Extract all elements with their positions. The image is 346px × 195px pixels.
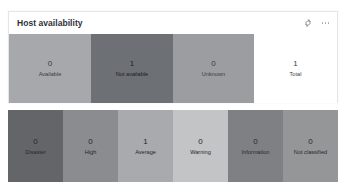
- severity-row: 0 Disaster 0 High 1 Average 0 Warning 0 …: [8, 110, 338, 182]
- cell-label: Average: [135, 148, 156, 156]
- ellipsis-glyph: [322, 22, 330, 24]
- severity-cell-information[interactable]: 0 Information: [228, 110, 283, 182]
- gear-icon[interactable]: [302, 18, 313, 29]
- severity-cell-average[interactable]: 1 Average: [118, 110, 173, 182]
- widget-card: Host availability 0 Availabl: [8, 11, 338, 103]
- availability-row: 0 Available 1 Not available 0 Unknown 1 …: [9, 34, 337, 103]
- cell-label: Total: [290, 70, 302, 78]
- cell-label: Warning: [190, 148, 211, 156]
- more-options-icon[interactable]: [320, 18, 331, 29]
- cell-value: 1: [130, 59, 134, 69]
- availability-cell-not-available[interactable]: 1 Not available: [91, 34, 173, 103]
- availability-cell-unknown[interactable]: 0 Unknown: [173, 34, 254, 103]
- cell-value: 0: [211, 59, 215, 69]
- severity-cell-disaster[interactable]: 0 Disaster: [8, 110, 63, 182]
- cell-value: 0: [33, 137, 37, 147]
- cell-value: 0: [48, 59, 52, 69]
- cell-label: Available: [39, 70, 62, 78]
- severity-cell-high[interactable]: 0 High: [63, 110, 118, 182]
- cell-label: Disaster: [25, 148, 46, 156]
- cell-label: Unknown: [202, 70, 225, 78]
- cell-value: 1: [143, 137, 147, 147]
- cell-label: Not available: [116, 70, 148, 78]
- cell-value: 0: [198, 137, 202, 147]
- severity-cell-not-classified[interactable]: 0 Not classified: [283, 110, 338, 182]
- availability-cell-total[interactable]: 1 Total: [254, 34, 337, 103]
- cell-value: 1: [293, 59, 297, 69]
- availability-cell-available[interactable]: 0 Available: [9, 34, 91, 103]
- cell-value: 0: [308, 137, 312, 147]
- severity-cell-warning[interactable]: 0 Warning: [173, 110, 228, 182]
- cell-label: Information: [242, 148, 270, 156]
- cell-value: 0: [88, 137, 92, 147]
- cell-label: High: [85, 148, 97, 156]
- widget-header: Host availability: [9, 12, 337, 34]
- cell-label: Not classified: [294, 148, 327, 156]
- header-actions: [302, 18, 331, 29]
- host-availability-widget: Host availability 0 Availabl: [0, 0, 346, 195]
- cell-value: 0: [253, 137, 257, 147]
- page-title: Host availability: [17, 18, 83, 28]
